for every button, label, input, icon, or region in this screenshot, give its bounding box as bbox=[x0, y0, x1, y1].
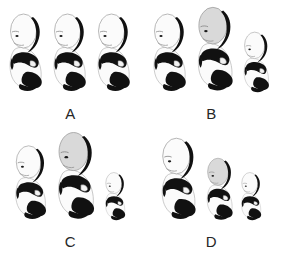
specimen-eye bbox=[15, 35, 18, 37]
specimen-row-d bbox=[141, 134, 282, 222]
specimen-a-3 bbox=[94, 10, 136, 94]
specimen-eye bbox=[204, 30, 207, 32]
panel-label-a: A bbox=[0, 106, 141, 121]
specimen-b-3 bbox=[241, 29, 274, 95]
specimen-eye bbox=[21, 166, 24, 168]
specimen-row-a bbox=[0, 6, 141, 94]
specimen-a-1 bbox=[6, 10, 48, 94]
specimen-c-1 bbox=[12, 142, 52, 222]
specimen-eye bbox=[212, 175, 215, 177]
specimen-eye bbox=[159, 35, 162, 37]
specimen-c-2 bbox=[54, 128, 101, 222]
specimen-eye bbox=[248, 48, 250, 50]
panel-d: D bbox=[141, 128, 282, 256]
specimen-eye bbox=[103, 35, 106, 37]
panel-label-c: C bbox=[0, 234, 141, 249]
specimen-row-b bbox=[141, 6, 282, 94]
panel-label-b: B bbox=[141, 106, 282, 121]
specimen-b-1 bbox=[150, 10, 192, 94]
panel-c: C bbox=[0, 128, 141, 256]
specimen-d-3 bbox=[239, 170, 265, 222]
specimen-eye bbox=[109, 185, 111, 186]
specimen-a-2 bbox=[50, 10, 92, 94]
panel-label-d: D bbox=[141, 234, 282, 249]
specimen-eye bbox=[168, 160, 171, 162]
specimen-d-2 bbox=[204, 155, 238, 222]
panel-b: B bbox=[141, 0, 282, 128]
specimen-row-c bbox=[0, 134, 141, 222]
figure-plate: A B C D bbox=[0, 0, 282, 256]
specimen-b-2 bbox=[194, 3, 239, 94]
specimen-eye bbox=[65, 156, 69, 158]
panel-a: A bbox=[0, 0, 141, 128]
specimen-d-1 bbox=[158, 134, 202, 222]
specimen-c-3 bbox=[103, 170, 129, 222]
specimen-eye bbox=[59, 35, 62, 37]
specimen-eye bbox=[245, 185, 247, 186]
